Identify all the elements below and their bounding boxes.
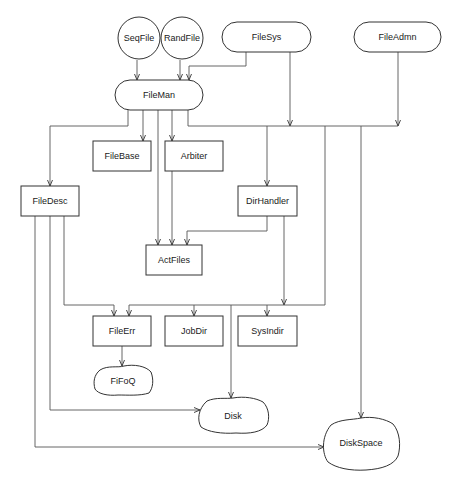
node-disk[interactable]: Disk [199,397,269,433]
node-fileadmn[interactable]: FileAdmn [354,22,441,52]
node-fileman[interactable]: FileMan [115,80,203,110]
edge-filesys-fileman [189,52,246,80]
edge-dirhandler-actfiles [187,216,267,245]
node-label: DiskSpace [339,438,382,448]
node-label: FileAdmn [378,32,416,42]
node-filedesc[interactable]: FileDesc [21,186,79,216]
node-label: SeqFile [124,33,155,43]
node-diskspace[interactable]: DiskSpace [323,417,399,470]
node-label: FiFoQ [110,376,135,386]
node-label: Disk [224,411,242,421]
node-label: FileDesc [32,196,68,206]
node-label: JobDir [181,326,207,336]
node-fifoq[interactable]: FiFoQ [94,365,153,395]
node-label: SysIndir [251,326,284,336]
node-filesys[interactable]: FileSys [222,22,311,52]
node-label: ActFiles [158,255,191,265]
node-randfile[interactable]: RandFile [161,17,203,59]
node-arbiter[interactable]: Arbiter [165,141,223,171]
node-seqfile[interactable]: SeqFile [118,17,160,59]
node-sysindir[interactable]: SysIndir [238,316,297,346]
node-fileerr[interactable]: FileErr [93,316,151,346]
node-actfiles[interactable]: ActFiles [146,245,202,275]
node-jobdir[interactable]: JobDir [165,316,223,346]
edges [35,52,401,450]
node-label: FileSys [252,32,282,42]
node-label: FileMan [143,90,175,100]
node-dirhandler[interactable]: DirHandler [238,186,297,216]
node-filebase[interactable]: FileBase [93,141,151,171]
node-label: FileErr [109,326,136,336]
module-diagram: SeqFile RandFile FileSys FileAdmn FileMa… [0,0,460,492]
edge-fileman-bus [188,110,398,126]
node-label: Arbiter [181,151,208,161]
edge-filedesc-fileerr [64,216,114,316]
node-label: RandFile [164,33,200,43]
node-label: FileBase [104,151,139,161]
node-label: DirHandler [246,196,289,206]
